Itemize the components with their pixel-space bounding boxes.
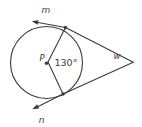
- label-external-point-w: w: [114, 51, 121, 61]
- label-center-p: P: [39, 53, 45, 63]
- label-central-angle: 130°: [55, 57, 78, 68]
- arrowhead-m-icon: [32, 20, 39, 25]
- tangent-circle-figure: m n w P 130°: [0, 0, 142, 127]
- geometry-diagram: m n w P 130°: [0, 0, 142, 127]
- label-ray-m: m: [42, 5, 51, 15]
- center-point-dot: [45, 62, 48, 65]
- top-tangent-point-dot: [64, 26, 67, 29]
- bottom-tangent-point-dot: [61, 92, 64, 95]
- label-ray-n: n: [39, 115, 45, 125]
- ray-n-shaft: [38, 94, 63, 106]
- diagram-text: m n w P 130°: [39, 5, 121, 125]
- arrowhead-n-icon: [32, 104, 39, 109]
